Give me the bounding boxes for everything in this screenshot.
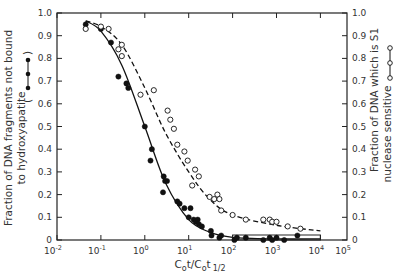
- open-data-point: [190, 183, 195, 188]
- open-data-point: [106, 26, 111, 31]
- filled-data-point: [282, 237, 287, 242]
- filled-data-point: [274, 235, 279, 240]
- y-tick-right: 0.9: [352, 31, 367, 41]
- x-tick: 100: [133, 244, 149, 256]
- y-tick-left: 0.6: [38, 99, 53, 109]
- open-data-point: [212, 197, 217, 202]
- y-tick-left: 0.2: [38, 190, 52, 200]
- y-tick-right: 0.6: [352, 99, 367, 109]
- filled-data-point: [149, 147, 154, 152]
- open-data-point: [230, 212, 235, 217]
- y-tick-right: 0.2: [352, 190, 366, 200]
- y-tick-left: 1.0: [38, 8, 53, 18]
- open-data-point: [151, 88, 156, 93]
- filled-data-point: [164, 178, 169, 183]
- chart: 000.10.10.20.20.30.30.40.40.50.50.60.60.…: [0, 0, 402, 278]
- svg-text:): ): [21, 51, 33, 55]
- filled-data-point: [188, 206, 193, 211]
- x-axis-label: Cot/Cot1/2: [174, 258, 225, 273]
- filled-data-point: [182, 206, 187, 211]
- filled-data-point: [243, 235, 248, 240]
- y-tick-right: 1.0: [352, 8, 367, 18]
- x-tick: 105: [335, 244, 351, 256]
- x-tick: 104: [309, 244, 325, 256]
- open-data-point: [165, 108, 170, 113]
- y-tick-right: 0.1: [352, 212, 366, 222]
- open-data-point: [193, 167, 198, 172]
- y-tick-left: 0.4: [38, 144, 53, 154]
- svg-text:(: (: [21, 99, 33, 103]
- left-y-axis-label: Fraction of DNA fragments not boundto hy…: [2, 30, 27, 226]
- y-tick-right: 0.7: [352, 76, 366, 86]
- open-data-point: [175, 142, 180, 147]
- plot-frame: [57, 13, 347, 240]
- open-data-point: [119, 42, 124, 47]
- x-tick: 103: [265, 244, 281, 256]
- open-data-point: [298, 226, 303, 231]
- open-data-point: [119, 54, 124, 59]
- open-data-point: [168, 117, 173, 122]
- svg-text:to hydroxyapatite: to hydroxyapatite: [15, 91, 27, 184]
- open-data-point: [171, 126, 176, 131]
- axis-labels: Cot/Cot1/2Fraction of DNA fragments not …: [2, 28, 393, 273]
- filled-marker-legend-icon: [26, 58, 31, 91]
- filled-data-point: [219, 233, 224, 238]
- plot-axes: 000.10.10.20.20.30.30.40.40.50.50.60.60.…: [38, 8, 367, 256]
- filled-data-point: [261, 237, 266, 242]
- y-tick-left: 0.1: [38, 212, 52, 222]
- open-data-point: [261, 217, 266, 222]
- filled-data-point: [186, 215, 191, 220]
- right-y-axis-label: Fraction of DNA which is S1nuclease sens…: [368, 28, 393, 183]
- y-tick-left: 0.5: [38, 122, 52, 132]
- y-tick-left: 0.8: [38, 53, 53, 63]
- open-data-point: [285, 224, 290, 229]
- y-tick-left: 0.9: [38, 31, 53, 41]
- y-tick-right: 0.3: [352, 167, 366, 177]
- y-tick-right: 0.5: [352, 122, 366, 132]
- open-data-point: [274, 219, 279, 224]
- open-data-point: [196, 174, 201, 179]
- filled-data-point: [108, 40, 113, 45]
- svg-text:Fraction of DNA which is S1: Fraction of DNA which is S1: [368, 28, 380, 172]
- x-tick: 10-2: [44, 244, 62, 256]
- x-tick: 101: [177, 244, 193, 256]
- open-data-point: [217, 197, 222, 202]
- filled-data-point: [295, 233, 300, 238]
- open-marker-legend-icon: [388, 46, 393, 81]
- open-data-point: [185, 158, 190, 163]
- filled-data-point: [177, 201, 182, 206]
- y-tick-left: 0.3: [38, 167, 52, 177]
- open-data-point: [98, 24, 103, 29]
- x-tick: 10-1: [88, 244, 106, 256]
- filled-data-point: [142, 124, 147, 129]
- open-data-point: [116, 47, 121, 52]
- dashed-fit-curve: [86, 21, 321, 231]
- y-tick-left: 0.7: [38, 76, 52, 86]
- open-data-point: [182, 149, 187, 154]
- open-data-point: [83, 26, 88, 31]
- x-tick: 102: [221, 244, 237, 256]
- filled-data-point: [209, 233, 214, 238]
- svg-text:Fraction of DNA fragments not: Fraction of DNA fragments not bound: [2, 30, 14, 226]
- svg-text:nuclease sensitive: nuclease sensitive: [381, 86, 393, 183]
- filled-data-point: [234, 235, 239, 240]
- filled-data-point: [126, 85, 131, 90]
- y-tick-right: 0.4: [352, 144, 367, 154]
- filled-data-point: [116, 74, 121, 79]
- open-data-point: [243, 217, 248, 222]
- filled-data-point: [148, 158, 153, 163]
- y-tick-left: 0: [46, 235, 52, 245]
- open-data-point: [138, 92, 143, 97]
- y-tick-right: 0: [352, 235, 358, 245]
- filled-data-point: [199, 224, 204, 229]
- filled-data-point: [160, 190, 165, 195]
- open-data-point: [219, 208, 224, 213]
- y-tick-right: 0.8: [352, 53, 367, 63]
